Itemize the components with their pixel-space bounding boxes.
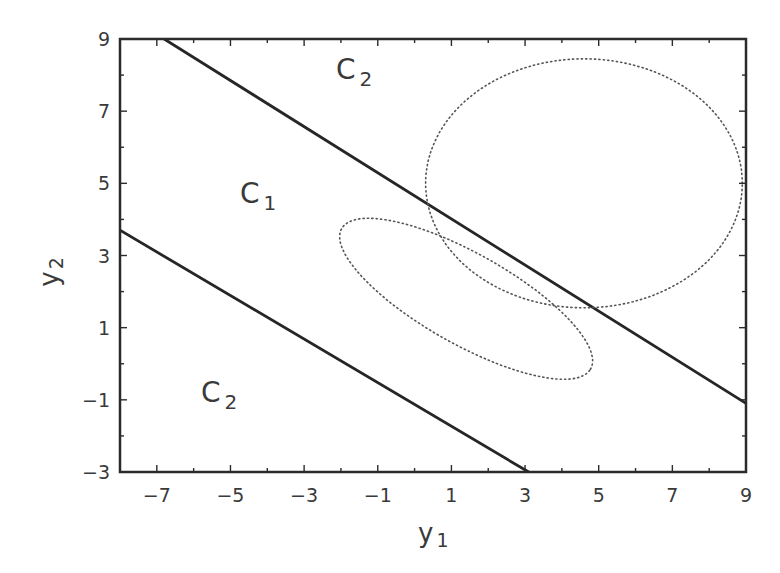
- y-tick-label: 3: [98, 245, 110, 267]
- x-axis-label-main: y: [418, 518, 433, 548]
- x-tick-label: −3: [290, 484, 318, 506]
- region-label-c2-lower: C2: [201, 376, 237, 414]
- x-tick-labels: −7−5−3−113579: [143, 484, 752, 506]
- y-axis-label-main: y: [34, 271, 64, 286]
- x-tick-label: 3: [519, 484, 531, 506]
- y-axis-label: y2: [34, 257, 67, 286]
- x-axis-label-sub: 1: [436, 529, 448, 551]
- region-label-sub: 1: [264, 191, 277, 215]
- class-c1-contour-ellipse: [340, 218, 593, 379]
- y-tick-label: 7: [98, 100, 110, 122]
- class-c2-contour-ellipse: [426, 59, 743, 308]
- x-tick-label: −7: [143, 484, 171, 506]
- x-tick-label: 5: [593, 484, 605, 506]
- region-label-main: C: [240, 177, 260, 210]
- y-tick-label: 9: [98, 28, 110, 50]
- y-axis-label-sub: 2: [45, 257, 67, 269]
- region-label-sub: 2: [360, 67, 373, 91]
- x-tick-label: −1: [364, 484, 392, 506]
- y-tick-label: 5: [98, 172, 110, 194]
- decision-boundary-chart: −7−5−3−113579 −3−113579 y1 y2 C2 C1 C2: [0, 0, 780, 573]
- x-tick-label: 7: [666, 484, 678, 506]
- x-tick-label: 1: [445, 484, 457, 506]
- y-tick-label: −1: [82, 389, 110, 411]
- x-tick-label: −5: [216, 484, 244, 506]
- region-label-main: C: [201, 376, 221, 409]
- region-label-c1: C1: [240, 177, 276, 215]
- lower-decision-boundary: [120, 230, 529, 472]
- region-label-c2-upper: C2: [336, 53, 372, 91]
- y-tick-labels: −3−113579: [82, 28, 110, 483]
- x-tick-label: 9: [740, 484, 752, 506]
- region-label-sub: 2: [225, 390, 238, 414]
- y-tick-label: −3: [82, 461, 110, 483]
- upper-decision-boundary: [164, 39, 746, 403]
- region-label-main: C: [336, 53, 356, 86]
- y-tick-label: 1: [98, 317, 110, 339]
- x-axis-label: y1: [418, 518, 448, 551]
